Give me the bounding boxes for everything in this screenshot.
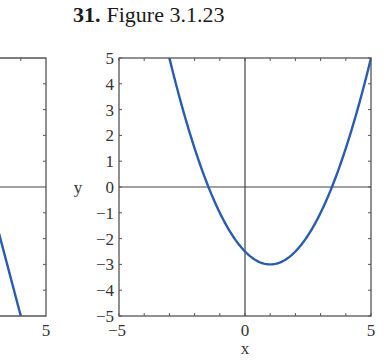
- y-tick-label: 0: [106, 178, 115, 197]
- y-tick-label: 3: [106, 101, 115, 120]
- y-tick-label: −1: [96, 204, 114, 223]
- y-tick-label: 2: [106, 126, 115, 145]
- y-tick-label: 5: [106, 49, 115, 68]
- x-tick-label: −5: [108, 321, 126, 340]
- y-tick-label: −2: [96, 230, 114, 249]
- y-axis-label: y: [74, 178, 83, 197]
- main-plot-panel: 543210−1−2−3−4−5−505xy: [74, 0, 376, 358]
- y-tick-label: −4: [96, 281, 115, 300]
- x-tick-label: 5: [367, 321, 376, 340]
- y-tick-label: 1: [106, 152, 115, 171]
- y-tick-label: 4: [106, 75, 115, 94]
- left-curve: [0, 214, 21, 316]
- left-x-tick-label: 5: [42, 321, 51, 340]
- figure-plots: 5 543210−1−2−3−4−5−505xy: [0, 0, 387, 361]
- x-axis-label: x: [241, 339, 250, 358]
- y-tick-label: −3: [96, 255, 114, 274]
- x-tick-label: 0: [241, 321, 250, 340]
- left-plot-panel: 5: [0, 58, 50, 340]
